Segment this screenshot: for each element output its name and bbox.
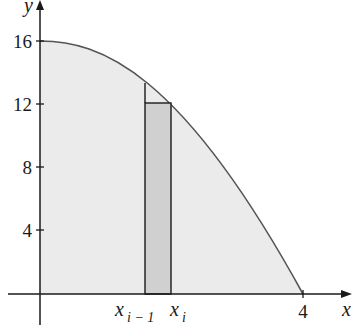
y-axis-label: y bbox=[22, 0, 33, 17]
y-tick-label-4: 4 bbox=[23, 220, 33, 241]
label-x-i-subscript: i bbox=[182, 310, 186, 325]
x-axis-label: x bbox=[341, 298, 351, 320]
label-x-i-minus-1: x bbox=[114, 298, 124, 320]
x-tick-label-4: 4 bbox=[298, 301, 308, 322]
y-tick-label-12: 12 bbox=[13, 94, 32, 115]
approximating-rectangle bbox=[145, 103, 171, 294]
label-x-i: x bbox=[169, 298, 179, 320]
y-axis-arrow-icon bbox=[36, 0, 44, 10]
riemann-rectangle-diagram: 16 12 8 4 4 y x x i − 1 x i bbox=[0, 0, 361, 328]
y-tick-label-16: 16 bbox=[13, 31, 32, 52]
y-tick-label-8: 8 bbox=[23, 157, 33, 178]
label-x-i-minus-1-subscript: i − 1 bbox=[127, 310, 154, 325]
x-axis-arrow-icon bbox=[341, 290, 352, 298]
